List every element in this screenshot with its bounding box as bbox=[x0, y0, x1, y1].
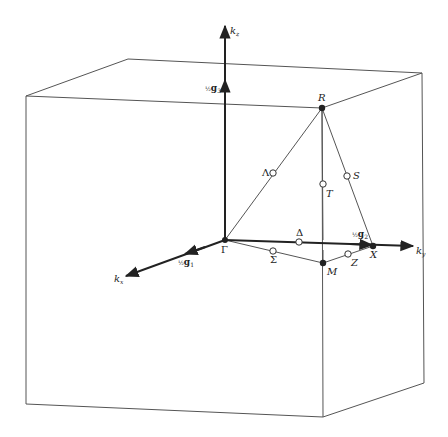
z-label: Z bbox=[350, 257, 359, 268]
r-label: R bbox=[317, 92, 326, 103]
point-gamma bbox=[222, 237, 228, 243]
kx-label: kx bbox=[114, 273, 124, 285]
high-symmetry-points bbox=[222, 105, 376, 266]
point-t bbox=[320, 181, 326, 187]
point-delta bbox=[296, 239, 302, 245]
point-m bbox=[320, 260, 326, 266]
half-g2-label: ½g2 bbox=[352, 229, 368, 240]
lambda-label: Λ bbox=[261, 167, 270, 178]
labels: kz ky kx ½g3 ½g2 ½g1 Γ R X M Λ Δ Σ S T Z bbox=[114, 25, 426, 285]
gamma-label: Γ bbox=[221, 244, 228, 255]
m-label: M bbox=[326, 266, 338, 277]
brillouin-zone-diagram: kz ky kx ½g3 ½g2 ½g1 Γ R X M Λ Δ Σ S T Z bbox=[0, 0, 448, 437]
x-label: X bbox=[369, 249, 378, 260]
s-label: S bbox=[353, 170, 360, 181]
delta-label: Δ bbox=[296, 227, 303, 238]
half-g1-label: ½g1 bbox=[178, 257, 194, 268]
point-lambda bbox=[270, 170, 276, 176]
t-label: T bbox=[326, 188, 334, 199]
ky-label: ky bbox=[416, 245, 426, 258]
ky-axis bbox=[225, 240, 413, 246]
kz-label: kz bbox=[230, 25, 240, 37]
kx-axis bbox=[126, 240, 225, 276]
point-r bbox=[319, 105, 325, 111]
point-s bbox=[344, 173, 350, 179]
sigma-label: Σ bbox=[270, 254, 277, 265]
half-g3-label: ½g3 bbox=[205, 83, 221, 94]
